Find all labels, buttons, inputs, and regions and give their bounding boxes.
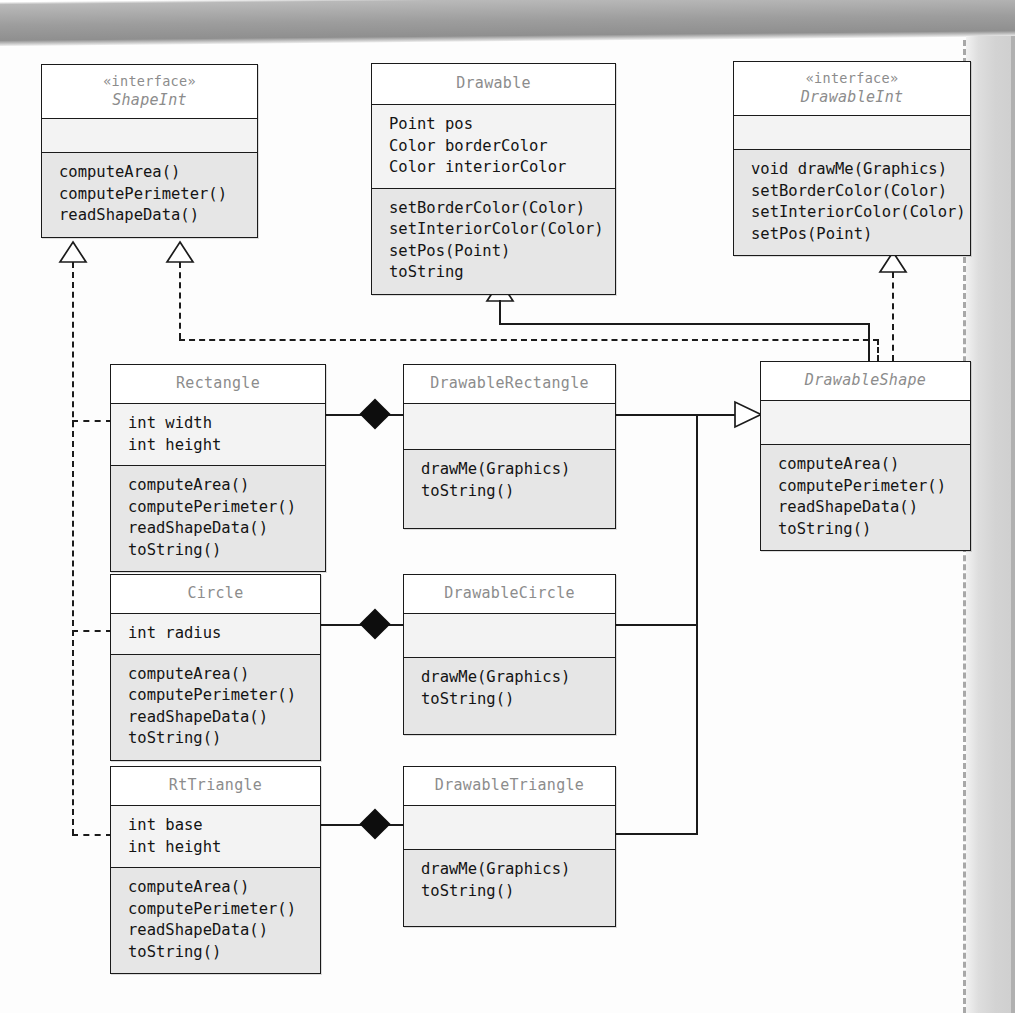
attributes-compartment-shapeint [42,118,257,152]
class-name-drawablecircle: DrawableCircle [404,575,615,613]
operation-item: readShapeData() [128,707,320,729]
operation-item: toString() [421,481,615,503]
class-title: DrawableTriangle [435,776,584,794]
class-name-rttriangle: RtTriangle [111,767,320,805]
operations-compartment-circle: computeArea() computePerimeter() readSha… [111,654,320,760]
class-name-drawabletriangle: DrawableTriangle [404,767,615,805]
operations-compartment-drawableshape: computeArea() computePerimeter() readSha… [761,444,970,550]
realization-line-shapeint-to-drawableshape-vert [179,262,181,339]
operation-item: drawMe(Graphics) [421,859,615,881]
operation-item: setInteriorColor(Color) [751,202,970,224]
operation-item: computePerimeter() [128,685,320,707]
attributes-compartment-circle: int radius [111,613,320,654]
composition-diamond-circle [359,608,390,639]
uml-class-drawabletriangle[interactable]: DrawableTriangle drawMe(Graphics) toStri… [403,766,616,927]
stereotype-label: «interface» [46,72,253,91]
operation-item: drawMe(Graphics) [421,667,615,689]
operation-item: void drawMe(Graphics) [751,159,970,181]
generalization-line-drawableshape-to-drawable-horz [499,323,870,325]
operations-compartment-drawableint: void drawMe(Graphics) setBorderColor(Col… [734,149,970,255]
realization-line-shapeint-trunk [72,262,74,835]
uml-class-diagram-page: «interface» ShapeInt computeArea() compu… [0,0,1015,1013]
attribute-item: Point pos [389,114,615,136]
class-name-drawable: Drawable [372,64,615,104]
generalization-line-drawablecircle-join [616,624,698,626]
uml-class-drawablecircle[interactable]: DrawableCircle drawMe(Graphics) toString… [403,574,616,735]
generalization-line-drawabletriangle-join [616,833,698,835]
operation-item: computeArea() [59,162,257,184]
operation-item: toString() [128,728,320,750]
operation-item: computePerimeter() [128,899,320,921]
attributes-compartment-rttriangle: int base int height [111,805,320,867]
operation-item: computeArea() [128,664,320,686]
attributes-compartment-rectangle: int width int height [111,403,325,465]
operation-item: toString [389,262,615,284]
attribute-item: Color borderColor [389,136,615,158]
attribute-item: int radius [128,623,320,645]
operation-item: setInteriorColor(Color) [389,219,615,241]
class-title: DrawableRectangle [430,374,589,392]
uml-class-drawableshape[interactable]: DrawableShape computeArea() computePerim… [760,361,971,551]
scan-page-edge [1011,36,1015,1013]
uml-class-drawablerectangle[interactable]: DrawableRectangle drawMe(Graphics) toStr… [403,364,616,529]
uml-class-drawable[interactable]: Drawable Point pos Color borderColor Col… [371,63,616,295]
realization-branch-circle [72,630,112,632]
operation-item: toString() [778,519,970,541]
operation-item: readShapeData() [59,205,257,227]
class-title: DrawableCircle [444,584,575,602]
attributes-compartment-drawablerectangle [404,403,615,449]
operation-item: setBorderColor(Color) [751,181,970,203]
operations-compartment-drawable: setBorderColor(Color) setInteriorColor(C… [372,188,615,294]
operations-compartment-drawabletriangle: drawMe(Graphics) toString() [404,849,615,926]
realization-arrowhead-shapeint-right [167,242,193,262]
realization-line-drawableshape-to-drawableint [892,272,894,361]
realization-line-drawableshape-top-stub [877,339,879,361]
class-title: DrawableShape [805,371,926,389]
class-title: RtTriangle [169,776,262,794]
scan-shadow-right [966,36,1015,1013]
attributes-compartment-drawableint [734,115,970,149]
uml-class-drawableint[interactable]: «interface» DrawableInt void drawMe(Grap… [733,61,971,256]
scan-shadow-top [0,0,1015,46]
operation-item: readShapeData() [128,920,320,942]
composition-diamond-rttriangle [359,808,390,839]
realization-line-shapeint-to-drawableshape-horz [179,339,879,341]
generalization-line-drawable-stub [499,300,501,324]
uml-class-circle[interactable]: Circle int radius computeArea() computeP… [110,574,321,761]
class-name-shapeint: «interface» ShapeInt [42,65,257,118]
stereotype-label: «interface» [738,69,966,88]
operations-compartment-rttriangle: computeArea() computePerimeter() readSha… [111,867,320,973]
uml-class-rectangle[interactable]: Rectangle int width int height computeAr… [110,364,326,572]
attributes-compartment-drawablecircle [404,613,615,657]
operation-item: computeArea() [128,877,320,899]
operation-item: computePerimeter() [59,184,257,206]
class-name-drawablerectangle: DrawableRectangle [404,365,615,403]
attributes-compartment-drawabletriangle [404,805,615,849]
operation-item: computePerimeter() [128,497,325,519]
class-name-circle: Circle [111,575,320,613]
generalization-arrowhead-drawableshape [735,402,761,427]
operation-item: drawMe(Graphics) [421,459,615,481]
attribute-item: int width [128,413,325,435]
composition-diamond-rectangle [359,398,390,429]
attribute-item: int height [128,435,325,457]
operations-compartment-drawablecircle: drawMe(Graphics) toString() [404,657,615,734]
operation-item: toString() [421,689,615,711]
operation-item: computeArea() [778,454,970,476]
attribute-item: int height [128,837,320,859]
realization-branch-rectangle [72,420,112,422]
operation-item: toString() [421,881,615,903]
uml-class-rttriangle[interactable]: RtTriangle int base int height computeAr… [110,766,321,974]
operation-item: readShapeData() [778,497,970,519]
attributes-compartment-drawable: Point pos Color borderColor Color interi… [372,104,615,188]
generalization-line-drawableshape-to-drawable-vert [868,323,870,361]
operation-item: setPos(Point) [389,241,615,263]
operation-item: setBorderColor(Color) [389,198,615,220]
class-title: Circle [188,584,244,602]
operations-compartment-shapeint: computeArea() computePerimeter() readSha… [42,152,257,237]
attributes-compartment-drawableshape [761,400,970,444]
uml-class-shapeint[interactable]: «interface» ShapeInt computeArea() compu… [41,64,258,238]
class-title: DrawableInt [738,88,966,107]
class-title: ShapeInt [46,91,253,110]
realization-branch-rttriangle [72,834,112,836]
